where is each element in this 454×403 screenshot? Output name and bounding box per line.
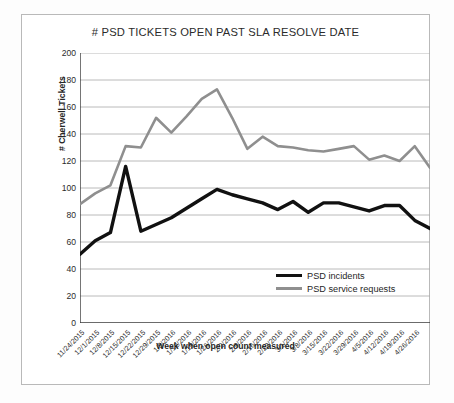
x-axis-title: Week when open count measured [22, 341, 429, 351]
chart-container: # PSD TICKETS OPEN PAST SLA RESOLVE DATE… [21, 14, 430, 385]
legend-label: PSD service requests [307, 284, 395, 294]
y-tick-label: 200 [62, 48, 76, 58]
legend-swatch-icon [276, 287, 302, 290]
plot-area: # Cherwell Tickets 020406080100120140160… [80, 53, 430, 323]
series-line [80, 166, 430, 254]
y-tick-label: 20 [66, 291, 76, 301]
page-canvas: # PSD TICKETS OPEN PAST SLA RESOLVE DATE… [0, 0, 454, 403]
gridlines [80, 53, 430, 296]
legend-label: PSD incidents [307, 271, 365, 281]
y-tick-label: 120 [62, 156, 76, 166]
y-tick-label: 40 [66, 264, 76, 274]
y-axis-title: # Cherwell Tickets [57, 76, 67, 151]
y-tick-label: 140 [62, 129, 76, 139]
legend-item-psd-incidents: PSD incidents [276, 269, 395, 282]
series-lines [80, 89, 430, 254]
chart-title: # PSD TICKETS OPEN PAST SLA RESOLVE DATE [22, 26, 429, 38]
y-tick-label: 100 [62, 183, 76, 193]
y-tick-label: 0 [71, 318, 76, 328]
chart-legend: PSD incidents PSD service requests [276, 269, 395, 295]
y-tick-label: 160 [62, 102, 76, 112]
y-tick-label: 80 [66, 210, 76, 220]
legend-swatch-icon [276, 274, 302, 277]
legend-item-psd-service-requests: PSD service requests [276, 282, 395, 295]
y-tick-label: 60 [66, 237, 76, 247]
y-tick-label: 180 [62, 75, 76, 85]
